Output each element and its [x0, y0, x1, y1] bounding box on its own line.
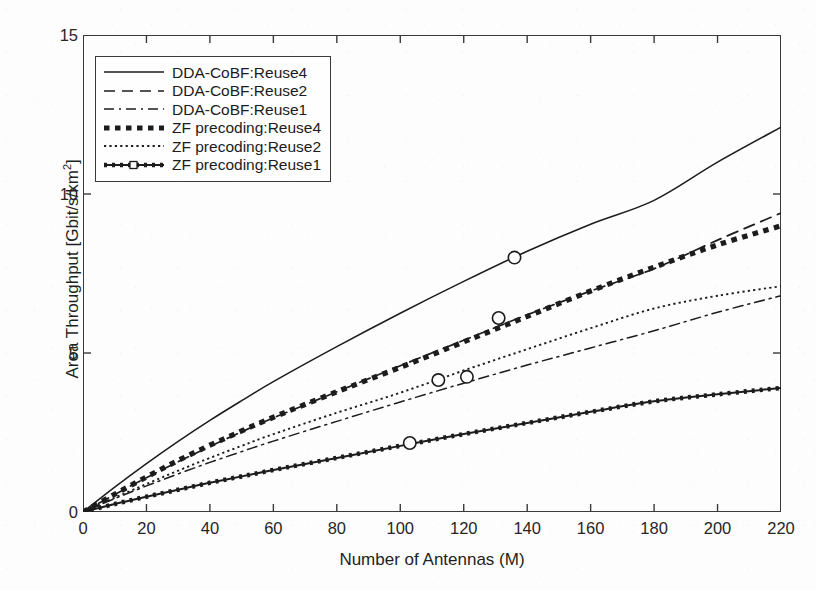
series-line — [83, 388, 781, 512]
legend-line-sample — [103, 83, 165, 99]
data-point-marker — [404, 437, 416, 449]
data-point-marker — [432, 374, 444, 386]
y-tick-label: 15 — [60, 26, 78, 45]
data-point-markers — [404, 251, 521, 449]
legend-line-sample — [103, 64, 165, 80]
series-layer — [83, 127, 781, 512]
x-tick-label: 140 — [513, 519, 541, 538]
x-tick-label: 160 — [577, 519, 605, 538]
chart-figure: 020406080100120140160180200220 051015 Nu… — [0, 0, 816, 590]
data-point-marker — [492, 312, 504, 324]
legend: DDA-CoBF:Reuse4DDA-CoBF:Reuse2DDA-CoBF:R… — [95, 56, 331, 182]
x-tick-label: 220 — [767, 519, 795, 538]
legend-item-2[interactable]: DDA-CoBF:Reuse2 — [103, 82, 321, 101]
legend-line-sample — [103, 157, 165, 173]
x-tick-label: 0 — [78, 519, 87, 538]
series-line — [83, 226, 781, 512]
x-tick-label: 120 — [450, 519, 478, 538]
x-tick-label: 20 — [137, 519, 155, 538]
x-tick-label: 80 — [328, 519, 346, 538]
legend-line-sample — [103, 120, 165, 136]
series-line — [83, 127, 781, 512]
legend-item-3[interactable]: DDA-CoBF:Reuse1 — [103, 100, 321, 119]
x-tick-label: 200 — [704, 519, 732, 538]
series-line — [83, 296, 781, 512]
series-line — [83, 388, 781, 512]
legend-item-5[interactable]: ZF precoding:Reuse2 — [103, 137, 321, 156]
x-tick-label: 40 — [201, 519, 219, 538]
y-tick-label: 0 — [69, 503, 78, 522]
legend-label: ZF precoding:Reuse1 — [172, 157, 321, 173]
x-tick-label: 180 — [640, 519, 668, 538]
legend-label: DDA-CoBF:Reuse2 — [172, 83, 307, 99]
x-tick-label: 60 — [264, 519, 282, 538]
legend-item-6[interactable]: ZF precoding:Reuse1 — [103, 156, 321, 175]
x-tick-label: 100 — [387, 519, 415, 538]
legend-line-sample — [103, 138, 165, 154]
legend-label: DDA-CoBF:Reuse4 — [172, 65, 307, 81]
data-point-marker — [461, 371, 473, 383]
legend-line-sample — [103, 101, 165, 117]
x-axis-title: Number of Antennas (M) — [83, 550, 781, 570]
data-point-marker — [508, 251, 520, 263]
legend-item-1[interactable]: DDA-CoBF:Reuse4 — [103, 63, 321, 82]
legend-item-4[interactable]: ZF precoding:Reuse4 — [103, 119, 321, 138]
legend-label: ZF precoding:Reuse2 — [172, 139, 321, 155]
legend-label: DDA-CoBF:Reuse1 — [172, 102, 307, 118]
y-axis-title: Area Throughput [Gbit/s/km2] — [61, 54, 83, 484]
legend-label: ZF precoding:Reuse4 — [172, 120, 321, 136]
